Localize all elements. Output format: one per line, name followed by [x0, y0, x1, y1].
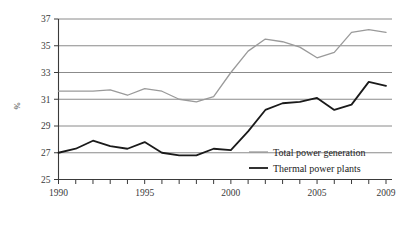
- y-tick-label-35: 35: [41, 41, 51, 51]
- x-tick-label-2005: 2005: [308, 188, 327, 198]
- y-tick-label-31: 31: [41, 95, 51, 105]
- y-tick-label-37: 37: [41, 14, 51, 24]
- y-tick-label-25: 25: [41, 175, 51, 185]
- x-tick-label-1995: 1995: [135, 188, 154, 198]
- chart-container: 25272931333537 19901995200020052009 % To…: [0, 0, 412, 229]
- y-tick-label-33: 33: [41, 68, 51, 78]
- x-tick-label-2009: 2009: [377, 188, 396, 198]
- x-tick-label-1990: 1990: [49, 188, 68, 198]
- y-axis-title: %: [12, 102, 22, 109]
- x-tick-label-2000: 2000: [221, 188, 240, 198]
- line-chart: 25272931333537 19901995200020052009 % To…: [0, 0, 412, 229]
- y-tick-label-27: 27: [41, 148, 51, 158]
- legend-label-0: Total power generation: [273, 147, 366, 158]
- legend-label-1: Thermal power plants: [273, 163, 361, 174]
- y-tick-label-29: 29: [41, 121, 51, 131]
